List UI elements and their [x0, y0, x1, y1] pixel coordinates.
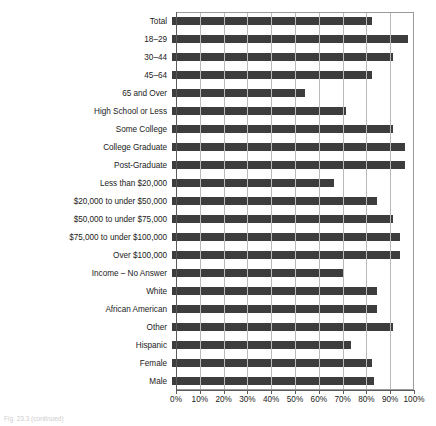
- category-label: $75,000 to under $100,000: [0, 233, 172, 242]
- bar: [172, 323, 393, 331]
- x-axis-tick: [343, 390, 344, 394]
- category-label: Other: [0, 323, 172, 332]
- bar-track: [172, 336, 410, 354]
- x-axis-line: [176, 390, 414, 391]
- chart-row: African American: [0, 300, 436, 318]
- bar-track: [172, 246, 410, 264]
- bar-track: [172, 102, 410, 120]
- x-axis-tick-label: 60%: [311, 395, 327, 405]
- category-label: $20,000 to under $50,000: [0, 197, 172, 206]
- bar-track: [172, 120, 410, 138]
- bar-track: [172, 210, 410, 228]
- bar: [172, 197, 377, 205]
- chart-row: 30–44: [0, 48, 436, 66]
- bar-track: [172, 228, 410, 246]
- x-axis-tick: [200, 390, 201, 394]
- bar-track: [172, 264, 410, 282]
- x-axis-tick-label: 80%: [358, 395, 374, 405]
- x-axis-tick: [271, 390, 272, 394]
- category-label: Male: [0, 377, 172, 386]
- x-axis-tick-label: 40%: [263, 395, 279, 405]
- x-axis-tick-label: 100%: [404, 395, 425, 405]
- category-label: Less than $20,000: [0, 179, 172, 188]
- bar-track: [172, 84, 410, 102]
- bar-track: [172, 156, 410, 174]
- x-axis-tick: [319, 390, 320, 394]
- category-label: African American: [0, 305, 172, 314]
- chart-rows: Total18–2930–4445–6465 and OverHigh Scho…: [0, 12, 436, 390]
- bar-track: [172, 354, 410, 372]
- chart-row: Male: [0, 372, 436, 390]
- x-axis-tick: [224, 390, 225, 394]
- category-label: 30–44: [0, 53, 172, 62]
- bar-track: [172, 372, 410, 390]
- bar: [172, 251, 400, 259]
- category-label: 45–64: [0, 71, 172, 80]
- x-axis-tick-label: 90%: [382, 395, 398, 405]
- x-axis-tick: [366, 390, 367, 394]
- bar: [172, 17, 372, 25]
- x-axis-tick: [390, 390, 391, 394]
- x-axis-tick-label: 30%: [239, 395, 255, 405]
- chart-row: White: [0, 282, 436, 300]
- bar: [172, 143, 405, 151]
- chart-row: 18–29: [0, 30, 436, 48]
- x-axis-tick: [414, 390, 415, 394]
- x-axis-tick-label: 70%: [334, 395, 350, 405]
- x-axis-tick-label: 0%: [170, 395, 182, 405]
- bar-track: [172, 174, 410, 192]
- bar: [172, 53, 393, 61]
- bar-track: [172, 12, 410, 30]
- bar-track: [172, 192, 410, 210]
- y-axis-line: [176, 12, 177, 390]
- chart-row: Total: [0, 12, 436, 30]
- chart-row: 45–64: [0, 66, 436, 84]
- chart-row: Female: [0, 354, 436, 372]
- chart-row: $20,000 to under $50,000: [0, 192, 436, 210]
- bar: [172, 269, 343, 277]
- bar: [172, 305, 377, 313]
- chart-row: 65 and Over: [0, 84, 436, 102]
- bar: [172, 341, 351, 349]
- category-label: Post-Graduate: [0, 161, 172, 170]
- x-axis-tick: [176, 390, 177, 394]
- chart-row: High School or Less: [0, 102, 436, 120]
- bar-track: [172, 318, 410, 336]
- category-label: $50,000 to under $75,000: [0, 215, 172, 224]
- bar-track: [172, 66, 410, 84]
- bar: [172, 35, 408, 43]
- chart-row: $50,000 to under $75,000: [0, 210, 436, 228]
- bar-track: [172, 282, 410, 300]
- bar: [172, 287, 377, 295]
- bar: [172, 161, 405, 169]
- figure-caption: Fig. 23.3 (continued): [4, 415, 64, 423]
- chart-row: Some College: [0, 120, 436, 138]
- bar: [172, 71, 372, 79]
- bar: [172, 215, 393, 223]
- x-axis-tick-label: 20%: [215, 395, 231, 405]
- category-label: Over $100,000: [0, 251, 172, 260]
- x-axis-tick: [247, 390, 248, 394]
- chart-row: Other: [0, 318, 436, 336]
- x-axis-tick-label: 50%: [287, 395, 303, 405]
- x-axis-tick: [295, 390, 296, 394]
- category-label: 65 and Over: [0, 89, 172, 98]
- x-axis-tick-labels: 0%10%20%30%40%50%60%70%80%90%100%: [0, 395, 436, 409]
- chart-row: Less than $20,000: [0, 174, 436, 192]
- bar-track: [172, 300, 410, 318]
- bar: [172, 89, 305, 97]
- category-label: White: [0, 287, 172, 296]
- chart-row: Income – No Answer: [0, 264, 436, 282]
- bar: [172, 233, 400, 241]
- chart-row: Hispanic: [0, 336, 436, 354]
- category-label: Some College: [0, 125, 172, 134]
- chart-row: $75,000 to under $100,000: [0, 228, 436, 246]
- category-label: High School or Less: [0, 107, 172, 116]
- category-label: 18–29: [0, 35, 172, 44]
- horizontal-bar-chart: Total18–2930–4445–6465 and OverHigh Scho…: [0, 0, 436, 426]
- bar: [172, 125, 393, 133]
- category-label: Hispanic: [0, 341, 172, 350]
- chart-row: Over $100,000: [0, 246, 436, 264]
- bar-track: [172, 138, 410, 156]
- category-label: Total: [0, 17, 172, 26]
